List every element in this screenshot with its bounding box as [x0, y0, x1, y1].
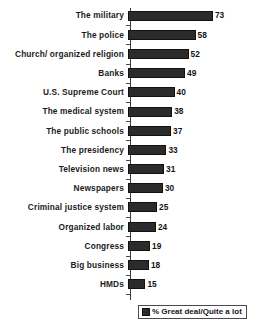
bar-zone: 73 — [128, 6, 253, 25]
bar-row: HMDs15 — [0, 275, 253, 294]
bar — [128, 68, 185, 78]
bar-value-label: 25 — [159, 203, 168, 211]
category-label: Organized labor — [0, 223, 128, 231]
bar-row: The presidency33 — [0, 140, 253, 159]
bar-rows: The military73The police58Church/ organi… — [0, 6, 253, 294]
bar-zone: 18 — [128, 255, 253, 274]
bar — [128, 87, 175, 97]
bar — [128, 183, 163, 193]
category-label: The police — [0, 31, 128, 39]
bar-zone: 19 — [128, 236, 253, 255]
category-label: The presidency — [0, 146, 128, 154]
bar — [128, 202, 157, 212]
bar-zone: 31 — [128, 160, 253, 179]
chart-legend: % Great deal/Quite a lot — [138, 305, 247, 319]
bar — [128, 279, 145, 289]
bar-value-label: 15 — [147, 280, 156, 288]
axis-tick — [126, 160, 130, 161]
bar-value-label: 49 — [187, 69, 196, 77]
bar-zone: 37 — [128, 121, 253, 140]
bar-zone: 25 — [128, 198, 253, 217]
category-label: Newspapers — [0, 184, 128, 192]
axis-tick — [126, 102, 130, 103]
category-label: The military — [0, 11, 128, 19]
axis-tick — [126, 179, 130, 180]
bar-value-label: 38 — [174, 107, 183, 115]
bar-row: The public schools37 — [0, 121, 253, 140]
bar-zone: 33 — [128, 140, 253, 159]
bar-chart: The military73The police58Church/ organi… — [0, 0, 253, 325]
bar-row: Newspapers30 — [0, 179, 253, 198]
axis-tick — [126, 121, 130, 122]
axis-tick — [126, 294, 130, 295]
bar-value-label: 31 — [166, 165, 175, 173]
category-label: The public schools — [0, 127, 128, 135]
bar-row: The police58 — [0, 25, 253, 44]
bar-row: The military73 — [0, 6, 253, 25]
bar-zone: 40 — [128, 83, 253, 102]
bar — [128, 145, 166, 155]
category-label: Congress — [0, 242, 128, 250]
category-label: U.S. Supreme Court — [0, 88, 128, 96]
bar — [128, 107, 172, 117]
bar-zone: 38 — [128, 102, 253, 121]
bar — [128, 30, 196, 40]
bar-value-label: 73 — [215, 11, 224, 19]
bar — [128, 49, 189, 59]
legend-label: % Great deal/Quite a lot — [152, 308, 242, 316]
bar — [128, 126, 171, 136]
bar — [128, 164, 164, 174]
bar-zone: 24 — [128, 217, 253, 236]
legend-swatch-icon — [142, 308, 150, 316]
bar-value-label: 52 — [191, 50, 200, 58]
category-label: Criminal justice system — [0, 203, 128, 211]
bar-zone: 58 — [128, 25, 253, 44]
axis-tick — [126, 256, 130, 257]
axis-tick — [126, 198, 130, 199]
bar — [128, 222, 156, 232]
bar-value-label: 19 — [152, 242, 161, 250]
bar-row: Organized labor24 — [0, 217, 253, 236]
category-label: Big business — [0, 261, 128, 269]
bar-value-label: 30 — [165, 184, 174, 192]
bar-value-label: 40 — [177, 88, 186, 96]
axis-tick — [126, 44, 130, 45]
axis-tick — [126, 140, 130, 141]
bar-value-label: 18 — [151, 261, 160, 269]
bar-row: Big business18 — [0, 255, 253, 274]
axis-tick — [126, 217, 130, 218]
bar-row: Banks49 — [0, 64, 253, 83]
plot-area: The military73The police58Church/ organi… — [0, 0, 253, 325]
bar-zone: 15 — [128, 275, 253, 294]
bar-zone: 30 — [128, 179, 253, 198]
bar-value-label: 37 — [173, 127, 182, 135]
axis-tick — [126, 236, 130, 237]
bar-zone: 49 — [128, 64, 253, 83]
bar-zone: 52 — [128, 44, 253, 63]
bar-row: Congress19 — [0, 236, 253, 255]
axis-tick — [126, 64, 130, 65]
bar-value-label: 33 — [168, 146, 177, 154]
bar — [128, 241, 150, 251]
bar-row: Church/ organized religion52 — [0, 44, 253, 63]
axis-tick — [126, 83, 130, 84]
category-label: Church/ organized religion — [0, 50, 128, 58]
bar-row: U.S. Supreme Court40 — [0, 83, 253, 102]
category-label: The medical system — [0, 107, 128, 115]
bar-value-label: 58 — [198, 31, 207, 39]
axis-tick — [126, 25, 130, 26]
axis-tick — [126, 275, 130, 276]
category-label: HMDs — [0, 280, 128, 288]
bar-row: Television news31 — [0, 160, 253, 179]
bar — [128, 11, 213, 21]
bar-row: Criminal justice system25 — [0, 198, 253, 217]
bar-row: The medical system38 — [0, 102, 253, 121]
category-label: Television news — [0, 165, 128, 173]
bar — [128, 260, 149, 270]
bar-value-label: 24 — [158, 223, 167, 231]
category-label: Banks — [0, 69, 128, 77]
